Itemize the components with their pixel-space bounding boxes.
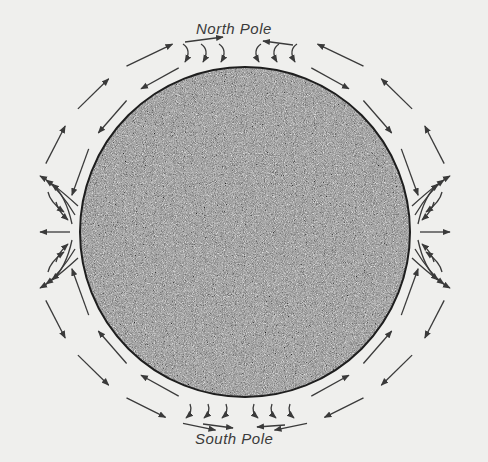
north-pole-horizontal-arrow <box>185 37 223 42</box>
outer-flow-arrow <box>78 79 109 109</box>
south-pole-hook-arrow <box>222 404 227 418</box>
sphere <box>80 67 410 397</box>
north-pole-hook-arrow <box>256 44 261 62</box>
south-pole-horizontal-arrow <box>257 425 285 427</box>
outer-flow-arrow <box>275 423 308 430</box>
outer-flow-arrow <box>425 126 444 164</box>
outer-flow-arrow <box>381 79 412 109</box>
north-pole-hook-arrow <box>219 44 224 62</box>
outer-flow-arrow <box>318 44 364 66</box>
north-pole-hook-arrow <box>274 44 279 62</box>
outer-flow-arrow <box>381 355 412 385</box>
south-pole-hook-arrow <box>253 404 258 418</box>
north-pole-hook-arrow <box>292 44 297 62</box>
south-pole-hook-arrow <box>204 404 209 418</box>
outer-flow-arrow <box>46 126 65 164</box>
south-pole-horizontal-arrow <box>203 424 233 428</box>
outer-flow-arrow <box>78 355 109 385</box>
south-pole-hook-arrow <box>289 404 294 418</box>
diagram-canvas: North Pole South Pole <box>0 0 488 462</box>
outer-flow-arrow <box>127 44 173 66</box>
circulation-diagram <box>0 0 488 462</box>
outer-flow-arrow <box>324 398 363 418</box>
north-pole-label: North Pole <box>196 20 272 37</box>
outer-flow-arrow <box>46 300 65 338</box>
north-pole-hook-arrow <box>183 44 188 62</box>
south-pole-hook-arrow <box>186 404 191 418</box>
outer-flow-arrow <box>127 398 166 418</box>
outer-flow-arrow <box>425 300 444 338</box>
south-pole-hook-arrow <box>271 404 276 418</box>
south-pole-label: South Pole <box>195 430 273 447</box>
north-pole-hook-arrow <box>201 44 206 62</box>
